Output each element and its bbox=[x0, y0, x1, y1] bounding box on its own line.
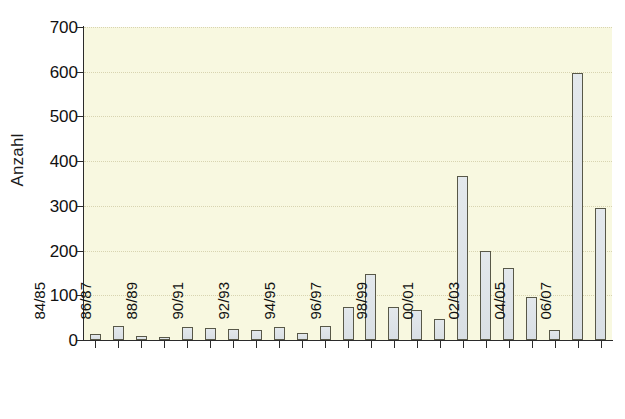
y-tick-mark bbox=[77, 251, 84, 252]
x-tick-label: 84/85 bbox=[31, 282, 48, 352]
x-tick-label: 92/93 bbox=[215, 282, 232, 352]
x-tick-mark bbox=[371, 341, 372, 348]
bar bbox=[434, 319, 445, 340]
x-tick-label: 06/07 bbox=[537, 282, 554, 352]
x-tick-mark bbox=[187, 341, 188, 348]
x-tick-mark bbox=[95, 341, 96, 348]
gridline bbox=[84, 206, 612, 207]
y-axis-tick-labels: 0100200300400500600700 bbox=[0, 0, 78, 419]
x-tick-label: 00/01 bbox=[399, 282, 416, 352]
y-tick-mark bbox=[77, 27, 84, 28]
gridline bbox=[84, 116, 612, 117]
y-tick-label: 500 bbox=[32, 108, 78, 125]
x-tick-mark bbox=[555, 341, 556, 348]
x-tick-label: 88/89 bbox=[123, 282, 140, 352]
y-tick-mark bbox=[77, 161, 84, 162]
bar-chart: Anzahl 0100200300400500600700 84/8586/87… bbox=[0, 0, 625, 419]
x-tick-label: 90/91 bbox=[169, 282, 186, 352]
bar bbox=[480, 251, 491, 340]
x-tick-mark bbox=[532, 341, 533, 348]
x-tick-mark bbox=[348, 341, 349, 348]
x-tick-mark bbox=[440, 341, 441, 348]
x-tick-mark bbox=[256, 341, 257, 348]
bar bbox=[297, 333, 308, 340]
x-tick-mark bbox=[279, 341, 280, 348]
x-tick-label: 98/99 bbox=[353, 282, 370, 352]
x-tick-label: 04/05 bbox=[491, 282, 508, 352]
gridline bbox=[84, 161, 612, 162]
x-tick-mark bbox=[118, 341, 119, 348]
x-tick-mark bbox=[325, 341, 326, 348]
x-tick-mark bbox=[486, 341, 487, 348]
gridline bbox=[84, 27, 612, 28]
plot-area bbox=[84, 27, 612, 340]
x-tick-mark bbox=[509, 341, 510, 348]
bar bbox=[572, 73, 583, 340]
y-tick-mark bbox=[77, 72, 84, 73]
x-tick-mark bbox=[394, 341, 395, 348]
x-tick-mark bbox=[164, 341, 165, 348]
bar bbox=[595, 208, 606, 340]
x-tick-mark bbox=[463, 341, 464, 348]
x-tick-mark bbox=[578, 341, 579, 348]
bar bbox=[388, 307, 399, 340]
x-tick-label: 02/03 bbox=[445, 282, 462, 352]
x-tick-label: 86/87 bbox=[77, 282, 94, 352]
bar bbox=[343, 307, 354, 340]
x-tick-mark bbox=[302, 341, 303, 348]
x-tick-mark bbox=[417, 341, 418, 348]
bar bbox=[526, 297, 537, 340]
x-tick-mark bbox=[233, 341, 234, 348]
gridline bbox=[84, 72, 612, 73]
y-tick-mark bbox=[77, 116, 84, 117]
y-tick-label: 200 bbox=[32, 242, 78, 259]
y-tick-label: 300 bbox=[32, 197, 78, 214]
x-tick-mark bbox=[601, 341, 602, 348]
x-tick-label: 96/97 bbox=[307, 282, 324, 352]
x-tick-label: 94/95 bbox=[261, 282, 278, 352]
y-tick-label: 400 bbox=[32, 153, 78, 170]
x-tick-mark bbox=[210, 341, 211, 348]
y-tick-label: 700 bbox=[32, 19, 78, 36]
gridline bbox=[84, 251, 612, 252]
x-tick-mark bbox=[141, 341, 142, 348]
y-tick-label: 600 bbox=[32, 63, 78, 80]
y-tick-mark bbox=[77, 206, 84, 207]
